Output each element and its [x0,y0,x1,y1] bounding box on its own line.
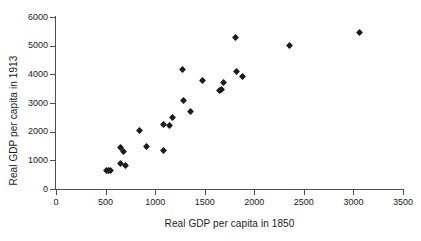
x-axis-line [55,189,404,190]
y-tick-mark [50,17,55,18]
y-tick-mark [50,103,55,104]
y-tick-label: 4000 [0,70,48,79]
x-tick-mark [403,190,404,195]
x-tick-label: 1500 [185,198,225,207]
y-tick-mark [50,132,55,133]
y-tick-label-text: 2000 [14,127,48,136]
x-tick-label: 2500 [284,198,324,207]
plot-area [56,17,403,189]
y-axis-label: Real GDP per capita in 1913 [0,0,26,241]
y-tick-label: 6000 [0,13,48,22]
x-tick-label: 1000 [135,198,175,207]
x-tick-mark [353,190,354,195]
y-tick-label-text: 4000 [14,70,48,79]
y-tick-label: 1000 [0,156,48,165]
y-tick-mark [50,74,55,75]
x-tick-label: 2000 [234,198,274,207]
y-tick-mark [50,189,55,190]
y-tick-label-text: 3000 [14,99,48,108]
x-tick-mark [205,190,206,195]
x-tick-label: 500 [86,198,126,207]
y-tick-label-text: 0 [14,185,48,194]
y-tick-mark [50,160,55,161]
x-axis-label: Real GDP per capita in 1850 [56,218,403,229]
scatter-chart: Real GDP per capita in 1913 010002000300… [0,0,421,241]
x-tick-mark [254,190,255,195]
y-tick-label-text: 1000 [14,156,48,165]
y-tick-label: 3000 [0,99,48,108]
y-tick-label: 5000 [0,41,48,50]
y-tick-label: 2000 [0,127,48,136]
x-tick-mark [106,190,107,195]
x-tick-label: 3500 [383,198,421,207]
x-tick-label: 3000 [333,198,373,207]
x-tick-mark [56,190,57,195]
y-tick-label: 0 [0,185,48,194]
y-tick-mark [50,46,55,47]
y-tick-label-text: 6000 [14,13,48,22]
x-tick-mark [304,190,305,195]
x-tick-label: 0 [36,198,76,207]
y-tick-label-text: 5000 [14,41,48,50]
x-tick-mark [155,190,156,195]
